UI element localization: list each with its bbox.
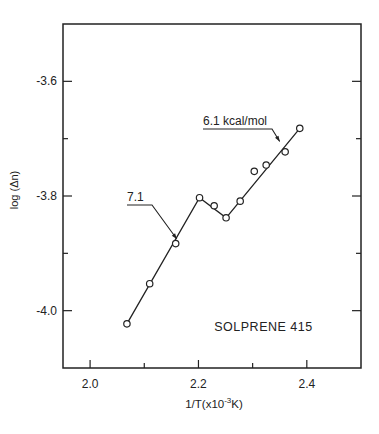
data-point — [172, 240, 178, 246]
y-tick-label: -3.6 — [36, 74, 57, 88]
x-axis-label: 1/T(x10-3K) — [185, 396, 243, 410]
data-point — [146, 281, 152, 287]
data-point — [211, 203, 217, 209]
x-tick-label: 2.0 — [82, 377, 99, 391]
y-axis-label: log (Δn) — [8, 171, 20, 210]
data-point — [263, 162, 269, 168]
annotation-slope-7-1: 7.1 — [127, 190, 144, 204]
plot-frame — [63, 24, 361, 368]
data-point — [237, 198, 243, 204]
data-point — [251, 168, 257, 174]
y-tick-label: -4.0 — [36, 304, 57, 318]
data-points — [124, 125, 303, 327]
data-point — [297, 125, 303, 131]
x-tick-label: 2.2 — [190, 377, 207, 391]
annotation-arrow — [203, 129, 280, 142]
chart: 2.02.22.4-3.6-3.8-4.0 7.16.1 kcal/molSOL… — [0, 0, 379, 434]
tick-labels: 2.02.22.4-3.6-3.8-4.0 — [36, 74, 315, 391]
annotation-arrow — [127, 205, 177, 239]
x-tick-label: 2.4 — [298, 377, 315, 391]
fit-line — [127, 128, 300, 324]
arrowhead-icon — [275, 136, 280, 142]
data-point — [223, 215, 229, 221]
sample-label: SOLPRENE 415 — [214, 320, 312, 334]
y-tick-label: -3.8 — [36, 189, 57, 203]
data-point — [282, 149, 288, 155]
data-point — [196, 195, 202, 201]
data-point — [124, 321, 130, 327]
annotation-slope-6-1: 6.1 kcal/mol — [203, 114, 267, 128]
